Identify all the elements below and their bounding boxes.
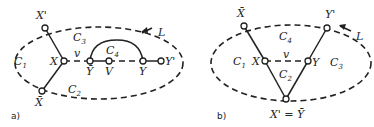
label-x: X <box>49 55 59 68</box>
panel-b: L X̄ Y' X Y X' = Ȳ v C1 C2 C3 C4 b) <box>211 7 371 121</box>
node-x-bar <box>39 88 45 94</box>
node-y <box>305 58 311 64</box>
region-c1: C1 <box>14 55 27 70</box>
node-x <box>61 58 67 64</box>
arrow-head-icon <box>141 27 148 33</box>
caption-b: b) <box>217 111 226 121</box>
region-c4: C4 <box>279 30 292 45</box>
node-x-prime <box>42 25 48 31</box>
label-edge-v: v <box>283 48 290 61</box>
node-y-prime <box>324 25 330 31</box>
label-x-bar: X̄ <box>34 96 44 109</box>
node-y-prime <box>158 58 164 64</box>
label-y-prime: Y' <box>165 55 175 68</box>
node-bottom <box>283 96 289 102</box>
label-bottom: X' = Ȳ <box>269 108 306 121</box>
loop-label: L <box>157 26 165 39</box>
node-v <box>106 58 112 64</box>
caption-a: a) <box>11 111 20 121</box>
label-y: Y <box>139 65 148 78</box>
region-c4: C4 <box>106 44 119 59</box>
region-c1: C1 <box>233 55 246 70</box>
label-edge-v: v <box>74 47 81 60</box>
label-x-bar: X̄ <box>236 7 246 20</box>
label-x: X <box>251 55 261 68</box>
node-x-bar <box>241 23 247 29</box>
node-x <box>262 58 268 64</box>
node-y <box>140 58 146 64</box>
label-y: Y <box>312 56 321 69</box>
diagram-canvas: L X' X X̄ Ȳ V Y Y' v C1 C2 C3 C4 a) <box>0 0 374 127</box>
label-x-prime: X' <box>35 9 47 22</box>
label-y-bar: Ȳ <box>86 65 95 78</box>
region-c3: C3 <box>73 31 86 46</box>
node-y-bar <box>87 58 93 64</box>
region-c3: C3 <box>330 56 343 71</box>
region-c2: C2 <box>279 68 292 83</box>
loop-label: L <box>355 30 363 43</box>
panel-a: L X' X X̄ Ȳ V Y Y' v C1 C2 C3 C4 a) <box>11 9 183 121</box>
region-c2: C2 <box>68 83 81 98</box>
label-v: V <box>105 65 114 78</box>
label-y-prime: Y' <box>325 8 335 21</box>
